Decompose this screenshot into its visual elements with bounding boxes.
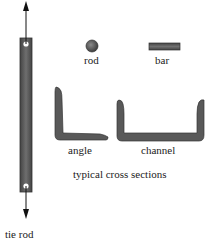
angle-label: angle [68,145,92,156]
bar-cross-section [149,43,180,50]
bar-label: bar [155,55,169,66]
arrow-up-icon [23,1,29,11]
channel-cross-section [117,100,204,141]
tie-rod-label: tie rod [5,229,33,240]
rod-cross-section [86,40,98,52]
diagram-title: typical cross sections [73,169,166,180]
arrow-down-icon [23,209,29,219]
tie-rod [20,1,32,219]
angle-cross-section [55,87,108,140]
rod-label: rod [84,55,99,66]
channel-label: channel [141,145,175,156]
diagram-canvas [0,0,218,248]
tie-rod-body [20,38,32,192]
